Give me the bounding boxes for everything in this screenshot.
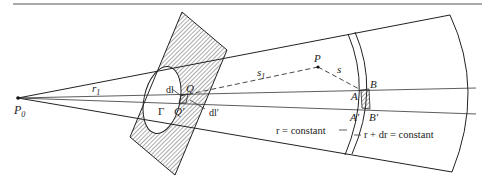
label-Gamma: Γ xyxy=(158,105,164,117)
label-r-constant: r = constant xyxy=(276,125,326,136)
label-Q: Q xyxy=(186,82,194,94)
source-point-dot xyxy=(16,96,20,100)
diffraction-diagram: P0 r1 dl Q Γ Q′ dl′ P s1 s A B A′ B′ r =… xyxy=(0,0,489,186)
label-Q-prime: Q′ xyxy=(174,105,185,117)
label-B-prime: B′ xyxy=(369,111,379,123)
label-r1: r1 xyxy=(92,82,100,97)
label-A: A xyxy=(350,90,358,102)
observation-point-dot xyxy=(316,65,319,68)
area-element xyxy=(361,89,370,109)
label-s1: s1 xyxy=(257,66,265,81)
label-dl-prime: dl′ xyxy=(209,107,219,118)
label-s: s xyxy=(337,63,341,75)
label-P0: P0 xyxy=(13,103,25,119)
label-P: P xyxy=(313,52,321,64)
label-B: B xyxy=(370,78,377,90)
label-r-dr-constant: r + dr = constant xyxy=(364,129,434,140)
label-dl: dl xyxy=(166,84,174,95)
cone-boundary xyxy=(18,15,468,172)
label-A-prime: A′ xyxy=(349,111,360,123)
